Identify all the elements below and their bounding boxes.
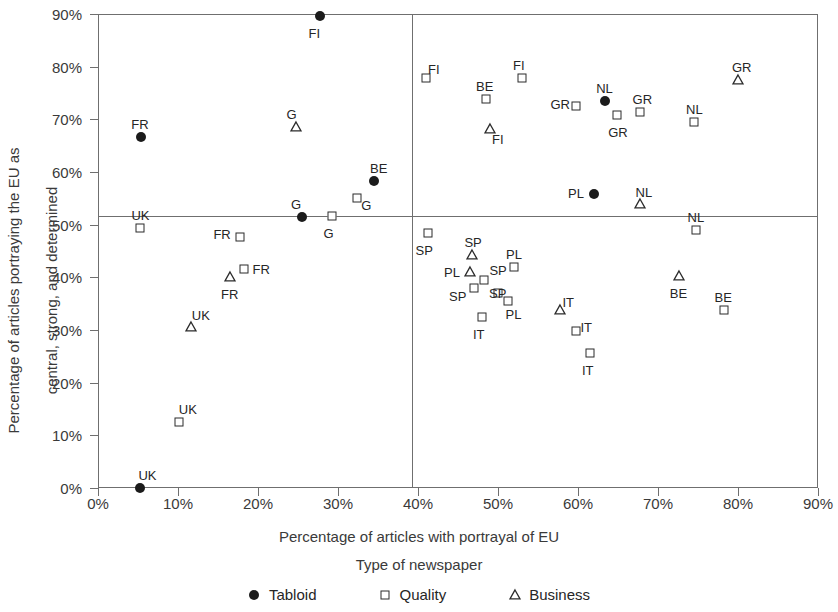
data-point-label: FR [213,228,230,241]
y-tick-label: 50% [30,217,82,234]
data-point-label: FR [221,288,238,301]
data-point-label: NL [636,186,653,199]
data-point-label: PL [444,266,460,279]
reference-line-horizontal [98,216,818,217]
legend-label: Business [529,586,590,603]
data-point-label: PL [568,187,584,200]
data-point-label: NL [686,103,703,116]
data-point-label: PL [506,308,522,321]
marker-business-triangle [732,74,744,85]
marker-business-triangle [290,121,302,132]
y-tick-label: 70% [30,111,82,128]
marker-quality-square [478,312,487,321]
marker-quality-square [136,224,145,233]
data-point-label: PL [506,248,522,261]
data-point-label: FI [513,59,525,72]
legend-entry[interactable]: Business [508,586,590,603]
data-point-label: FR [131,118,148,131]
y-tick-mark [90,488,98,489]
marker-quality-square [572,102,581,111]
marker-business-triangle [673,270,685,281]
legend-label: Tabloid [269,586,317,603]
y-tick-label: 90% [30,6,82,23]
marker-quality-square [691,225,700,234]
marker-tabloid-circle [600,96,610,106]
data-point-label: NL [688,211,705,224]
y-tick-label: 30% [30,322,82,339]
legend-entry[interactable]: Tabloid [248,586,317,603]
data-point-label: FI [309,27,321,40]
marker-quality-square [690,117,699,126]
data-point-label: GR [732,61,752,74]
data-point-label: G [287,108,297,121]
y-axis-label-line2: central, strong, and determined [42,71,61,511]
marker-quality-square [635,108,644,117]
legend-entry[interactable]: Quality [378,586,446,603]
x-tick-label: 20% [228,495,288,512]
y-tick-mark [90,67,98,68]
x-tick-label: 80% [708,495,768,512]
data-point-label: UK [131,209,149,222]
marker-quality-square [239,265,248,274]
marker-tabloid-circle [135,483,145,493]
data-point-label: IT [580,321,592,334]
scatter-chart-figure: Percentage of articles portraying the EU… [0,0,838,612]
y-tick-mark [90,14,98,15]
legend-label: Quality [399,586,446,603]
data-point-label: G [291,198,301,211]
y-tick-label: 80% [30,59,82,76]
data-point-label: IT [562,296,574,309]
x-tick-label: 0% [68,495,128,512]
x-tick-label: 10% [148,495,208,512]
marker-tabloid-circle [369,176,379,186]
legend-marker [378,588,391,601]
marker-quality-square [174,417,183,426]
marker-quality-square [586,349,595,358]
marker-quality-square [470,283,479,292]
y-tick-mark [90,119,98,120]
data-point-label: SP [464,236,481,249]
legend-marker [508,588,521,601]
marker-business-triangle [224,271,236,282]
legend: TabloidQualityBusiness [0,586,838,603]
data-point-label: UK [138,469,156,482]
marker-quality-square [380,590,389,599]
y-tick-mark [90,277,98,278]
legend-marker [248,588,261,601]
marker-tabloid-circle [249,590,259,600]
data-point-label: NL [596,82,613,95]
data-point-label: IT [473,328,485,341]
data-point-label: FR [253,263,270,276]
data-point-label: GR [550,98,570,111]
reference-line-vertical [412,14,413,488]
marker-quality-square [510,262,519,271]
marker-quality-square [719,305,728,314]
y-tick-label: 40% [30,269,82,286]
marker-tabloid-circle [589,189,599,199]
marker-tabloid-circle [297,212,307,222]
data-point-label: GR [608,126,628,139]
data-point-label: FI [492,133,504,146]
y-tick-mark [90,225,98,226]
marker-business-triangle [466,249,478,260]
data-point-label: FI [428,63,440,76]
marker-business-triangle [464,265,476,276]
plot-area [98,14,818,488]
marker-quality-square [482,95,491,104]
y-tick-mark [90,330,98,331]
data-point-label: BE [476,80,493,93]
x-tick-label: 60% [548,495,608,512]
x-tick-label: 40% [388,495,448,512]
y-axis-label: Percentage of articles portraying the EU… [0,71,80,511]
x-tick-label: 50% [468,495,528,512]
marker-quality-square [480,275,489,284]
y-tick-mark [90,383,98,384]
data-point-label: SP [489,264,506,277]
marker-quality-square [328,211,337,220]
marker-tabloid-circle [315,11,325,21]
y-tick-label: 10% [30,427,82,444]
data-point-label: IT [582,364,594,377]
y-tick-label: 60% [30,164,82,181]
marker-quality-square [613,111,622,120]
marker-quality-square [236,232,245,241]
